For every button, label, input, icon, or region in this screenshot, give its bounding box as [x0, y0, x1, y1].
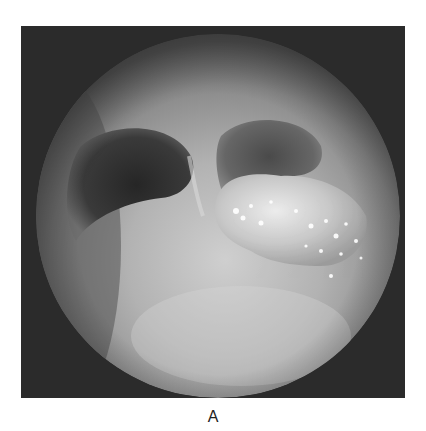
panel-label: A: [0, 408, 426, 426]
endoscopy-image: [21, 26, 405, 398]
figure-panel: A: [0, 0, 426, 431]
endoscopy-photo: [21, 26, 405, 398]
